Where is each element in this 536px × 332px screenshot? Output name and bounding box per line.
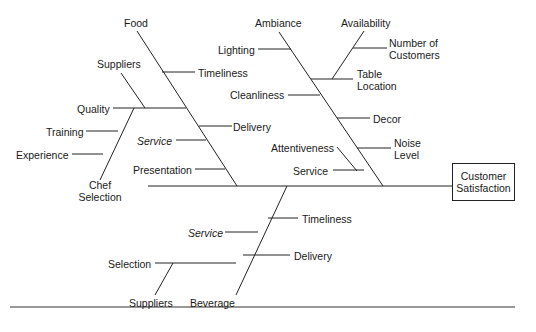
cause-food-presentation: Presentation [133,164,192,176]
cause-ambiance-cleanliness: Cleanliness [230,89,284,101]
category-food: Food [124,17,148,29]
beverage-bone [236,186,287,295]
cause-food-timeliness: Timeliness [198,67,248,79]
effect-label-line1: Customer [461,170,507,182]
cause-ambiance-number-of-customers: Number of Customers [389,37,440,61]
ambiance-bone [279,32,383,186]
cause-ambiance-table-location: Table Location [357,68,397,92]
cause-beverage-suppliers: Suppliers [129,297,173,309]
cause-food-service: Service [137,135,172,147]
cause-beverage-timeliness: Timeliness [302,213,352,225]
cause-ambiance-noise-level: Noise Level [394,137,421,161]
cause-food-quality: Quality [77,103,110,115]
cause-food-delivery: Delivery [233,121,271,133]
cause-food-training: Training [46,126,84,138]
cause-beverage-delivery: Delivery [294,250,332,262]
cause-ambiance-decor: Decor [373,113,401,125]
cause-ambiance-availability: Availability [341,17,390,29]
category-ambiance: Ambiance [255,17,302,29]
cause-beverage-service: Service [188,227,223,239]
cause-ambiance-lighting: Lighting [218,44,255,56]
effect-label-line2: Satisfaction [456,182,510,194]
cause-ambiance-attentiveness: Attentiveness [271,142,334,154]
cause-food-experience: Experience [16,149,69,161]
cause-beverage-selection: Selection [108,258,151,270]
effect-box: Customer Satisfaction [452,163,515,201]
cause-food-suppliers: Suppliers [97,58,141,70]
category-beverage: Beverage [190,297,235,309]
cause-food-chef-selection: Chef Selection [78,179,122,203]
cause-ambiance-service: Service [293,165,328,177]
